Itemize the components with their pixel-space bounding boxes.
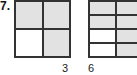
label-b: 6 (88, 63, 94, 74)
grid-cell-shaded (116, 43, 137, 57)
grid-cell-shaded (116, 1, 137, 15)
grid-cell-white (89, 43, 116, 57)
grid-cell-shaded (43, 1, 71, 29)
grid-cell-white (15, 29, 43, 57)
grid-cell-shaded (89, 15, 116, 29)
grid-cell-shaded (15, 1, 43, 29)
fraction-model-b (88, 0, 137, 58)
grid-cell-shaded (43, 29, 71, 57)
grid-cell-white (89, 29, 116, 43)
label-a: 3 (62, 63, 68, 74)
grid-cell-shaded (116, 29, 137, 43)
fraction-model-a (14, 0, 71, 58)
grid-cell-shaded (116, 15, 137, 29)
grid-cell-shaded (89, 1, 116, 15)
problem-number: 7. (0, 0, 10, 12)
